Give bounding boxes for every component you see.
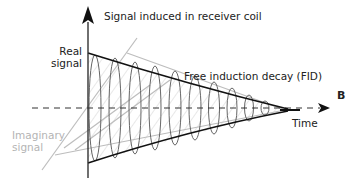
real-signal-label-line1: Real: [38, 45, 82, 57]
fid-label: Free induction decay (FID): [184, 70, 322, 82]
fid-diagram-graphic: [0, 0, 358, 190]
y-axis-label: Signal induced in receiver coil: [104, 10, 262, 22]
signal-axis-arrow-icon: [82, 6, 94, 24]
panel-label: B: [337, 90, 345, 102]
imaginary-signal-label: Imaginary signal: [12, 129, 65, 153]
fid-diagram: Signal induced in receiver coil Real sig…: [0, 0, 358, 190]
real-signal-label: Real signal: [38, 45, 82, 69]
imaginary-signal-label-line1: Imaginary: [12, 129, 65, 141]
imaginary-signal-label-line2: signal: [12, 141, 65, 153]
real-signal-label-line2: signal: [38, 57, 82, 69]
x-axis-label: Time: [292, 117, 318, 129]
